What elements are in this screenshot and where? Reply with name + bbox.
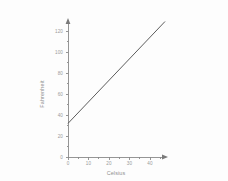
chart-screenshot: 0 20 40 60 80 100 120 0 10 20 30 40 Cels… [0, 0, 228, 181]
y-tick-label-80: 80 [58, 71, 64, 76]
x-tick-label-30: 30 [127, 161, 133, 166]
y-axis-arrow-icon [66, 18, 71, 24]
y-tick-label-40: 40 [58, 113, 64, 118]
x-tick-label-40: 40 [147, 161, 153, 166]
x-axis-title: Celsius [107, 170, 126, 176]
x-tick-label-10: 10 [86, 161, 92, 166]
y-tick-label-60: 60 [58, 92, 64, 97]
x-tick-label-20: 20 [106, 161, 112, 166]
x-axis-arrow-icon [162, 155, 168, 160]
y-tick-label-120: 120 [55, 29, 63, 34]
data-series-line [68, 22, 165, 124]
y-tick-label-100: 100 [55, 50, 63, 55]
y-axis-title: Fahrenheit [39, 80, 45, 108]
line-chart: 0 20 40 60 80 100 120 0 10 20 30 40 Cels… [0, 0, 228, 181]
y-tick-label-20: 20 [58, 134, 64, 139]
y-tick-label-0: 0 [60, 155, 63, 160]
x-tick-label-0: 0 [67, 161, 70, 166]
